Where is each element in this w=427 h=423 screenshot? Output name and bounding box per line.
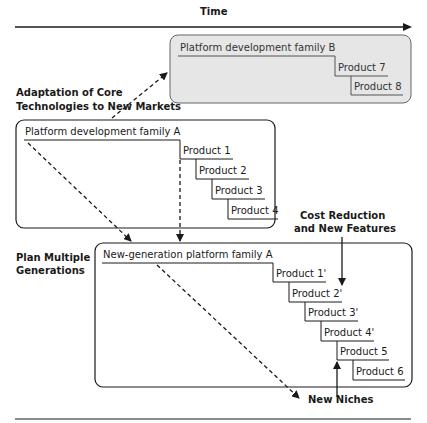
product-2-label: Product 2: [199, 165, 247, 177]
product-3-prime-label: Product 3': [308, 307, 358, 319]
product-6-label: Product 6: [356, 366, 404, 378]
time-label: Time: [200, 5, 227, 18]
product-7-label: Product 7: [338, 62, 386, 74]
product-3-label: Product 3: [215, 185, 263, 197]
product-1-prime-label: Product 1': [276, 268, 326, 280]
time-axis: [15, 23, 412, 31]
family-a-next-title: New-generation platform family A: [103, 249, 273, 261]
family-a-title: Platform development family A: [25, 126, 180, 138]
product-2-prime-label: Product 2': [292, 288, 342, 300]
product-8-label: Product 8: [354, 81, 402, 93]
plan-label-line1: Plan Multiple: [16, 251, 90, 264]
product-5-label: Product 5: [340, 346, 388, 358]
adaptation-label-line1: Adaptation of Core: [16, 86, 123, 99]
cost-reduction-label-line2: and New Features: [294, 222, 396, 235]
cost-reduction-label-line1: Cost Reduction: [300, 209, 385, 222]
plan-label-line2: Generations: [16, 264, 85, 277]
product-4-label: Product 4: [231, 205, 279, 217]
new-niches-label: New Niches: [308, 393, 373, 406]
adaptation-label-line2: Technologies to New Markets: [16, 100, 181, 113]
product-1-label: Product 1: [183, 145, 231, 157]
family-b-title: Platform development family B: [180, 42, 335, 54]
time-arrowhead-icon: [403, 23, 412, 31]
product-4-prime-label: Product 4': [324, 327, 374, 339]
